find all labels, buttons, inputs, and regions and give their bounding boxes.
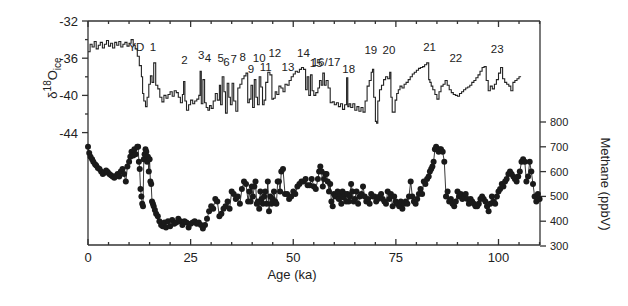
event-label: 20 [382, 44, 395, 56]
methane-point [527, 159, 533, 165]
right-axis-title: Methane (ppbV) [598, 137, 613, 230]
methane-point [528, 169, 534, 175]
methane-point [530, 181, 536, 187]
methane-point [210, 206, 216, 212]
methane-point [426, 174, 432, 180]
event-label: 18 [342, 63, 355, 75]
methane-point [250, 193, 256, 199]
methane-point [202, 222, 208, 228]
methane-point [204, 216, 210, 222]
event-label: 22 [449, 52, 462, 64]
methane-point [292, 191, 298, 197]
x-tick-label: 75 [389, 250, 403, 265]
methane-point [225, 198, 231, 204]
methane-point [309, 176, 315, 182]
methane-point [486, 208, 492, 214]
event-label: 8 [240, 51, 246, 63]
methane-point [214, 198, 220, 204]
event-label: 19 [364, 44, 377, 56]
methane-point [147, 156, 153, 162]
right-tick-label: 500 [550, 190, 568, 202]
event-label: 16/17 [312, 56, 341, 68]
x-axis-title: Age (ka) [267, 267, 316, 282]
methane-series [85, 144, 543, 232]
left-tick-label: -44 [59, 126, 78, 141]
methane-point [239, 186, 245, 192]
event-label: 13 [282, 61, 295, 73]
methane-point [517, 169, 523, 175]
methane-point [360, 184, 366, 190]
methane-point [138, 193, 144, 199]
event-label: 14 [297, 47, 310, 59]
methane-point [135, 144, 141, 150]
methane-point [137, 166, 143, 172]
methane-point [441, 159, 447, 165]
chart: -32-36-40-448007006005004003000255075100… [0, 0, 628, 306]
methane-point [525, 174, 531, 180]
event-label: 4 [205, 52, 212, 64]
methane-point [453, 198, 459, 204]
methane-point [367, 201, 373, 207]
methane-point [276, 179, 282, 185]
event-label: 3 [198, 49, 204, 61]
methane-point [235, 193, 241, 199]
x-tick-label: 0 [84, 250, 91, 265]
methane-point [327, 181, 333, 187]
methane-point [243, 181, 249, 187]
methane-point [140, 203, 146, 209]
methane-point [355, 201, 361, 207]
methane-point [280, 166, 286, 172]
left-tick-label: -40 [59, 88, 78, 103]
methane-point [123, 179, 129, 185]
methane-point [146, 169, 152, 175]
methane-point [537, 196, 543, 202]
event-label: 23 [491, 43, 504, 55]
methane-point [251, 184, 257, 190]
x-tick-label: 50 [286, 250, 300, 265]
event-label: 1 [150, 41, 156, 53]
event-label: 11 [260, 61, 272, 73]
methane-point [320, 184, 326, 190]
methane-point [133, 151, 139, 157]
methane-point [313, 186, 319, 192]
methane-point [237, 201, 243, 207]
methane-point [256, 206, 262, 212]
right-tick-label: 600 [550, 166, 568, 178]
event-label: 12 [268, 47, 281, 59]
methane-point [404, 201, 410, 207]
event-label: 6 [223, 56, 229, 68]
event-label: 2 [181, 54, 187, 66]
methane-point [253, 179, 259, 185]
x-tick-label: 25 [183, 250, 197, 265]
methane-point [419, 191, 425, 197]
methane-point [265, 179, 271, 185]
methane-point [492, 201, 498, 207]
left-tick-label: -32 [59, 14, 78, 29]
methane-point [273, 201, 279, 207]
methane-point [138, 186, 144, 192]
methane-point [330, 203, 336, 209]
event-label: 21 [423, 41, 436, 53]
methane-point [348, 181, 354, 187]
right-tick-label: 400 [550, 215, 568, 227]
methane-point [303, 176, 309, 182]
x-tick-label: 100 [488, 250, 510, 265]
methane-point [383, 201, 389, 207]
methane-point [126, 159, 132, 165]
right-tick-label: 300 [550, 240, 568, 252]
methane-point [440, 149, 446, 155]
methane-point [266, 208, 272, 214]
methane-point [324, 171, 330, 177]
methane-point [317, 164, 323, 170]
methane-point [315, 176, 321, 182]
event-label: 7 [231, 53, 237, 65]
methane-point [408, 179, 414, 185]
methane-point [431, 159, 437, 165]
event-label: YD [128, 41, 144, 53]
right-tick-label: 800 [550, 116, 568, 128]
methane-point [271, 188, 277, 194]
methane-point [121, 171, 127, 177]
methane-point [262, 188, 268, 194]
methane-point [227, 206, 233, 212]
left-axis-title: δ18Oice [42, 57, 63, 99]
